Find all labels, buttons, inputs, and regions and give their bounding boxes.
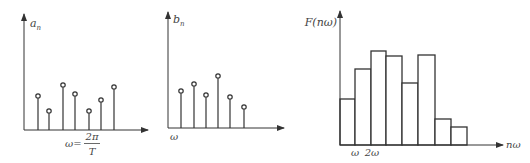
spectrum-bar: [355, 69, 371, 145]
spectrum-figure: an ω= 2π T bn ω F(nω) nω ω 2ω: [0, 0, 530, 163]
stems-an: [36, 83, 116, 130]
x-label-an-den: T: [89, 146, 97, 157]
stem: [73, 92, 77, 130]
stem: [99, 98, 103, 130]
chart-bn: bn ω: [168, 12, 284, 142]
stems-bn: [179, 74, 246, 128]
stem: [47, 109, 51, 130]
y-label-fnw: F(nω): [304, 16, 337, 29]
x-label-an-num: 2π: [85, 131, 99, 142]
spectrum-bar: [371, 51, 386, 145]
spectrum-bar: [451, 127, 467, 145]
y-label-bn: bn: [173, 13, 185, 28]
bars-fnw: [340, 51, 467, 145]
stem: [204, 93, 208, 128]
tick-label-2w: 2ω: [364, 147, 380, 158]
x-label-bn: ω: [170, 131, 178, 142]
y-label-an: an: [30, 17, 42, 32]
stem: [179, 89, 183, 128]
spectrum-bar: [386, 56, 402, 145]
tick-label-w: ω: [351, 147, 359, 158]
stem: [112, 85, 116, 130]
stem: [61, 83, 65, 130]
stem: [242, 105, 246, 128]
chart-fnw: F(nω) nω ω 2ω: [304, 11, 521, 158]
spectrum-bar: [340, 99, 355, 145]
stem: [87, 109, 91, 130]
chart-an: an ω= 2π T: [24, 14, 148, 157]
x-label-an-lhs: ω=: [65, 138, 82, 149]
spectrum-bar: [435, 119, 451, 145]
spectrum-bar: [418, 55, 435, 145]
stem: [216, 74, 220, 128]
stem: [36, 94, 40, 130]
x-label-fnw: nω: [506, 139, 521, 150]
spectrum-bar: [402, 83, 418, 145]
stem: [192, 82, 196, 128]
stem: [228, 95, 232, 128]
